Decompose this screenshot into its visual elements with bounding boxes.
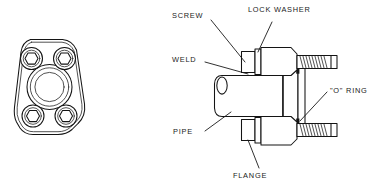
bolt-hole-bottom-left bbox=[22, 105, 44, 127]
bolt-hole-top-left bbox=[21, 48, 43, 70]
lock-washer-upper bbox=[255, 49, 261, 75]
center-bore-middle-ring bbox=[30, 68, 68, 106]
pipe-end-ellipse bbox=[217, 77, 227, 94]
center-bore-inner-ring bbox=[35, 72, 64, 101]
screw-collar-upper bbox=[261, 48, 297, 76]
screw-lower bbox=[242, 117, 338, 146]
technical-diagram: SCREW LOCK WASHER WELD PIPE "O" RING FLA… bbox=[0, 0, 378, 193]
flange-hub bbox=[283, 68, 298, 125]
label-flange: FLANGE bbox=[233, 171, 267, 180]
assembly-section-view bbox=[215, 48, 338, 146]
label-weld: WELD bbox=[172, 55, 196, 64]
center-bore-outer-ring bbox=[27, 65, 72, 110]
flange-face-view bbox=[14, 40, 84, 135]
leader-screw bbox=[211, 20, 245, 62]
label-pipe: PIPE bbox=[173, 127, 193, 136]
screw-head-lower bbox=[242, 120, 256, 141]
screw-collar-lower bbox=[261, 117, 297, 146]
bolt-hole-bottom-right bbox=[55, 105, 77, 127]
lock-washer-lower bbox=[255, 118, 261, 144]
pipe-body bbox=[215, 76, 284, 117]
label-lock-washer: LOCK WASHER bbox=[248, 5, 311, 14]
leader-flange bbox=[248, 140, 259, 168]
diagram-page: SCREW LOCK WASHER WELD PIPE "O" RING FLA… bbox=[0, 0, 378, 193]
label-o-ring: "O" RING bbox=[330, 86, 368, 95]
screw-head-upper bbox=[242, 52, 256, 73]
label-screw: SCREW bbox=[172, 11, 203, 20]
screw-upper bbox=[242, 48, 338, 76]
bolt-hole-top-right bbox=[54, 48, 76, 70]
